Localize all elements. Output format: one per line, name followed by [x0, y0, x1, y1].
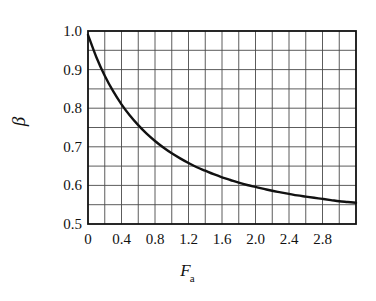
- x-tick-label: 0.8: [146, 232, 165, 247]
- x-axis-label-subscript: a: [190, 272, 195, 284]
- y-tick-label: 0.5: [38, 217, 82, 232]
- x-tick-label: 2.4: [280, 232, 299, 247]
- x-tick-label: 0.4: [112, 232, 131, 247]
- x-tick-label: 2.0: [246, 232, 265, 247]
- x-tick-label: 1.2: [179, 232, 198, 247]
- x-axis-label: Fa: [0, 262, 376, 282]
- y-tick-label: 1.0: [38, 24, 82, 39]
- y-tick-label: 0.7: [38, 139, 82, 154]
- x-tick-label: 1.6: [213, 232, 232, 247]
- y-axis-label: β: [9, 117, 28, 126]
- chart-figure: 0.50.60.70.80.91.0 00.40.81.21.62.02.42.…: [0, 0, 376, 301]
- y-tick-label: 0.6: [38, 178, 82, 193]
- y-tick-label: 0.9: [38, 62, 82, 77]
- x-tick-label: 2.8: [313, 232, 332, 247]
- y-tick-label: 0.8: [38, 101, 82, 116]
- grid-lines: [88, 31, 356, 224]
- x-tick-label: 0: [84, 232, 92, 247]
